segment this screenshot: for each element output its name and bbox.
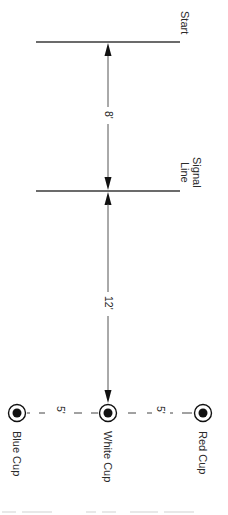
arrowhead-up-icon <box>105 192 112 205</box>
distance-label-8ft: 8' <box>103 110 114 120</box>
blue-cup-icon <box>9 405 26 422</box>
arrowhead-down-icon <box>105 390 112 403</box>
distance-label-white-red: 5' <box>155 405 166 415</box>
red-cup-icon <box>195 405 212 422</box>
white-cup-icon <box>100 405 117 422</box>
arrowhead-down-icon <box>105 177 112 190</box>
faint-caption <box>0 502 228 512</box>
distance-label-blue-white: 5' <box>55 405 66 415</box>
signal-line-label-line2: Line <box>179 157 191 188</box>
signal-line-label-line1: Signal <box>191 157 203 188</box>
distance-label-12ft: 12' <box>103 295 114 311</box>
red-cup-label: Red Cup <box>197 431 209 474</box>
white-cup-label: White Cup <box>102 431 114 482</box>
signal-line-label: Signal Line <box>179 157 203 188</box>
start-label: Start <box>179 11 191 34</box>
layout-diagram <box>0 0 228 515</box>
arrowhead-up-icon <box>105 43 112 56</box>
blue-cup-label: Blue Cup <box>11 431 23 476</box>
